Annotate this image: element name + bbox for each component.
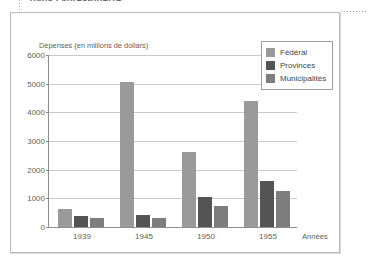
y-axis-tick-label: 6000	[27, 51, 45, 60]
y-axis-tick-label: 1000	[27, 194, 45, 203]
y-axis-tick-label: 5000	[27, 79, 45, 88]
legend-swatch-icon	[266, 48, 275, 57]
top-caption: dans l'après-guerre	[30, 0, 122, 1]
y-axis-tick-label: 4000	[27, 108, 45, 117]
legend-item-label: Municipalités	[280, 74, 326, 83]
legend-item: Fédéral	[266, 46, 326, 59]
bar	[198, 197, 212, 227]
decorative-dotted-rule-right	[341, 11, 368, 12]
figure-frame: Dépenses (en millions de dollars) 010002…	[10, 12, 340, 253]
bar	[90, 218, 104, 227]
legend-swatch-icon	[266, 61, 275, 70]
bar	[244, 101, 258, 227]
y-axis-tick-label: 3000	[27, 137, 45, 146]
x-axis-tick-label: 1950	[197, 232, 215, 241]
decorative-dotted-rule-left	[19, 0, 20, 12]
bar-group: 1939	[49, 55, 111, 227]
legend-item: Municipalités	[266, 72, 326, 85]
bar	[214, 206, 228, 227]
bar	[152, 218, 166, 227]
x-axis-tick-label: 1955	[259, 232, 277, 241]
y-axis-tick-label: 2000	[27, 165, 45, 174]
y-axis-tick-label: 0	[41, 223, 45, 232]
legend-item: Provinces	[266, 59, 326, 72]
y-axis-title: Dépenses (en millions de dollars)	[39, 41, 148, 50]
bar	[58, 209, 72, 227]
x-axis-tick-label: 1939	[73, 232, 91, 241]
bar	[276, 191, 290, 227]
plot-area: 0100020003000400050006000 19391945195019…	[48, 55, 297, 228]
legend-item-label: Fédéral	[280, 48, 307, 57]
bar-group: 1950	[173, 55, 235, 227]
bar	[136, 215, 150, 227]
bar	[74, 216, 88, 227]
chart-legend: FédéralProvincesMunicipalités	[261, 41, 333, 90]
x-axis-tick-label: 1945	[135, 232, 153, 241]
bar	[260, 181, 274, 227]
x-axis-title: Années	[302, 232, 328, 241]
legend-item-label: Provinces	[280, 61, 315, 70]
bar	[182, 152, 196, 227]
bar	[120, 82, 134, 227]
y-axis-tick-mark	[46, 227, 49, 228]
legend-swatch-icon	[266, 74, 275, 83]
bar-group: 1945	[111, 55, 173, 227]
bar-chart: Dépenses (en millions de dollars) 010002…	[11, 13, 339, 252]
